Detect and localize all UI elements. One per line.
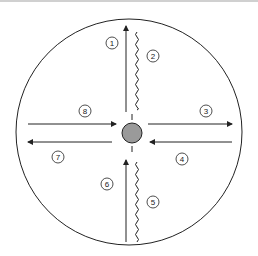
label-5: 5 (147, 196, 159, 208)
label-7: 7 (52, 151, 64, 163)
svg-text:1: 1 (110, 39, 115, 48)
svg-text:3: 3 (204, 107, 209, 116)
label-1: 1 (106, 37, 118, 49)
circular-flow-diagram: 1 2 3 4 5 6 7 8 (0, 0, 258, 256)
label-3: 3 (200, 105, 212, 117)
svg-text:5: 5 (151, 198, 156, 207)
svg-text:7: 7 (56, 153, 61, 162)
svg-text:6: 6 (105, 180, 110, 189)
label-8: 8 (79, 105, 91, 117)
center-node (122, 123, 142, 143)
svg-text:8: 8 (83, 107, 88, 116)
wavy-line-5 (136, 162, 139, 242)
wavy-line-2 (136, 32, 139, 110)
label-2: 2 (147, 50, 159, 62)
svg-text:4: 4 (180, 155, 185, 164)
label-4: 4 (176, 153, 188, 165)
svg-text:2: 2 (151, 52, 156, 61)
label-6: 6 (101, 178, 113, 190)
